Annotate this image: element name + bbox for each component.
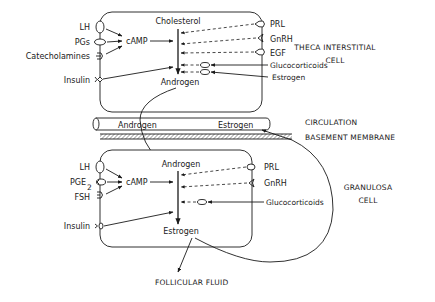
granulosa-prl-label: PRL bbox=[264, 163, 279, 172]
theca-cell-title-line2: CELL bbox=[325, 56, 345, 65]
theca-androgen-label: Androgen bbox=[161, 78, 200, 87]
granulosa-estrogen-label: Estrogen bbox=[163, 227, 198, 236]
two-cell-steroidogenesis-diagram: LH PGs Catecholamines Insulin cAMP Chole… bbox=[0, 0, 435, 302]
granulosa-lh-receptor-icon bbox=[96, 161, 104, 173]
theca-left-receptors: LH PGs Catecholamines Insulin bbox=[26, 21, 106, 85]
basement-membrane-label: BASEMENT MEMBRANE bbox=[305, 133, 395, 142]
theca-estrogen-input-label: Estrogen bbox=[272, 73, 305, 82]
circulation-estrogen-label: Estrogen bbox=[218, 121, 253, 130]
circulation-label: CIRCULATION bbox=[305, 118, 357, 127]
theca-insulin-label: Insulin bbox=[64, 76, 90, 85]
granulosa-glucocorticoids-label: Glucocorticoids bbox=[266, 198, 324, 207]
granulosa-camp-label: cAMP bbox=[126, 178, 148, 187]
follicular-fluid-label: FOLLICULAR FLUID bbox=[155, 278, 228, 287]
theca-prl-label: PRL bbox=[270, 20, 285, 29]
granulosa-left-receptors: LH PGE 2 FSH Insulin bbox=[64, 161, 106, 231]
cholesterol-label: Cholesterol bbox=[155, 17, 200, 26]
theca-estrogen-receptor-icon bbox=[201, 70, 210, 75]
lh-receptor-icon bbox=[96, 21, 104, 33]
egf-label: EGF bbox=[270, 49, 286, 58]
pge2-label: PGE bbox=[70, 178, 86, 187]
fsh-label: FSH bbox=[74, 193, 90, 202]
theca-gnrh-label: GnRH bbox=[270, 35, 293, 44]
granulosa-right-receptors: PRL GnRH bbox=[247, 163, 287, 188]
granulosa-lh-label: LH bbox=[80, 163, 90, 172]
pge2-receptor-icon bbox=[97, 179, 106, 185]
theca-interstitial-cell: LH PGs Catecholamines Insulin cAMP Chole… bbox=[26, 12, 376, 112]
pgs-receptor-icon bbox=[95, 39, 106, 45]
granulosa-prl-receptor-icon bbox=[247, 164, 255, 170]
circulation-androgen-label: Androgen bbox=[118, 121, 157, 130]
basement-membrane bbox=[100, 134, 292, 139]
granulosa-gnrh-label: GnRH bbox=[264, 179, 287, 188]
granulosa-cell-title-line1: GRANULOSA bbox=[344, 183, 393, 192]
theca-lh-label: LH bbox=[80, 23, 90, 32]
granulosa-glucocorticoid-receptor-icon bbox=[198, 200, 207, 205]
pge2-subscript: 2 bbox=[87, 183, 92, 192]
granulosa-insulin-receptor-icon bbox=[95, 223, 103, 229]
theca-camp-label: cAMP bbox=[126, 37, 148, 46]
granulosa-cell: LH PGE 2 FSH Insulin cAMP Androgen Estro… bbox=[64, 150, 393, 247]
theca-cell-title-line1: THECA INTERSTITIAL bbox=[293, 43, 376, 52]
granulosa-androgen-label: Androgen bbox=[162, 160, 201, 169]
theca-pgs-label: PGs bbox=[75, 38, 90, 47]
theca-glucocorticoid-receptor-icon bbox=[201, 63, 210, 68]
insulin-receptor-icon bbox=[95, 77, 103, 82]
catecholamines-label: Catecholamines bbox=[26, 52, 90, 61]
granulosa-insulin-label: Insulin bbox=[64, 222, 90, 231]
theca-glucocorticoids-label: Glucocorticoids bbox=[270, 61, 328, 70]
theca-cell-membrane bbox=[100, 12, 262, 112]
circulation-vessel: Androgen Estrogen bbox=[93, 118, 270, 130]
granulosa-cell-title-line2: CELL bbox=[358, 196, 378, 205]
